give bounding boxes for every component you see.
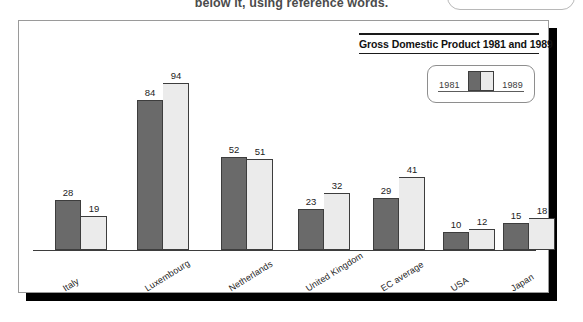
bar-1981-japan[interactable]: 15 (503, 223, 529, 250)
bar-1981-ec-average[interactable]: 29 (373, 198, 399, 250)
bar-value-label: 84 (145, 87, 156, 98)
bar-rect (443, 232, 469, 250)
bar-rect (469, 229, 495, 250)
bar-rect (247, 159, 273, 250)
category-label-netherlands: Netherlands (227, 259, 274, 294)
bar-1989-united-kingdom[interactable]: 32 (324, 193, 350, 250)
bar-1981-usa[interactable]: 10 (443, 232, 469, 250)
bar-rect (163, 83, 189, 250)
bar-value-label: 32 (332, 180, 343, 191)
bar-value-label: 23 (306, 196, 317, 207)
bar-value-label: 19 (89, 203, 100, 214)
bar-1981-italy[interactable]: 28 (55, 200, 81, 250)
bar-1981-united-kingdom[interactable]: 23 (298, 209, 324, 250)
bar-group-italy: 2819 (55, 200, 107, 250)
bar-1989-luxembourg[interactable]: 94 (163, 83, 189, 250)
chart-panel: Gross Domestic Product 1981 and 1989 198… (18, 20, 549, 293)
bar-rect (137, 100, 163, 250)
bar-1989-netherlands[interactable]: 51 (247, 159, 273, 250)
bar-group-ec-average: 2941 (373, 177, 425, 250)
bar-value-label: 41 (407, 164, 418, 175)
bar-rect (503, 223, 529, 250)
plot-area: 2819Italy8494Luxembourg5251Netherlands23… (33, 51, 536, 251)
bar-rect (324, 193, 350, 250)
bar-1989-italy[interactable]: 19 (81, 216, 107, 250)
category-label-united-kingdom: United Kingdom (304, 250, 365, 293)
axis-baseline (33, 250, 536, 252)
bar-rect (529, 218, 555, 250)
bar-1989-japan[interactable]: 18 (529, 218, 555, 250)
bar-1981-netherlands[interactable]: 52 (221, 157, 247, 250)
bar-group-netherlands: 5251 (221, 157, 273, 250)
bar-rect (55, 200, 81, 250)
chart-title: Gross Domestic Product 1981 and 1989 (359, 35, 539, 53)
bar-rect (373, 198, 399, 250)
bar-value-label: 10 (451, 219, 462, 230)
bar-1989-usa[interactable]: 12 (469, 229, 495, 250)
rounded-pill-button[interactable] (447, 0, 575, 10)
bar-value-label: 15 (511, 210, 522, 221)
bar-rect (399, 177, 425, 250)
category-label-japan: Japan (509, 272, 536, 294)
bar-group-usa: 1012 (443, 229, 495, 250)
bar-group-luxembourg: 8494 (137, 83, 189, 250)
bar-value-label: 51 (255, 146, 266, 157)
bar-1981-luxembourg[interactable]: 84 (137, 100, 163, 250)
bar-value-label: 52 (229, 144, 240, 155)
bar-value-label: 18 (537, 205, 548, 216)
category-label-ec-average: EC average (379, 259, 425, 293)
bar-value-label: 28 (63, 187, 74, 198)
category-label-italy: Italy (61, 276, 81, 293)
bar-group-japan: 1518 (503, 218, 555, 250)
category-label-luxembourg: Luxembourg (143, 258, 192, 294)
bar-value-label: 29 (381, 185, 392, 196)
bar-rect (81, 216, 107, 250)
bar-group-united-kingdom: 2332 (298, 193, 350, 250)
bar-rect (298, 209, 324, 250)
bar-1989-ec-average[interactable]: 41 (399, 177, 425, 250)
category-label-usa: USA (449, 275, 470, 293)
bar-value-label: 12 (477, 216, 488, 227)
bar-value-label: 94 (171, 70, 182, 81)
bar-rect (221, 157, 247, 250)
screenshot-root: below it, using reference words. Gross D… (0, 0, 583, 322)
